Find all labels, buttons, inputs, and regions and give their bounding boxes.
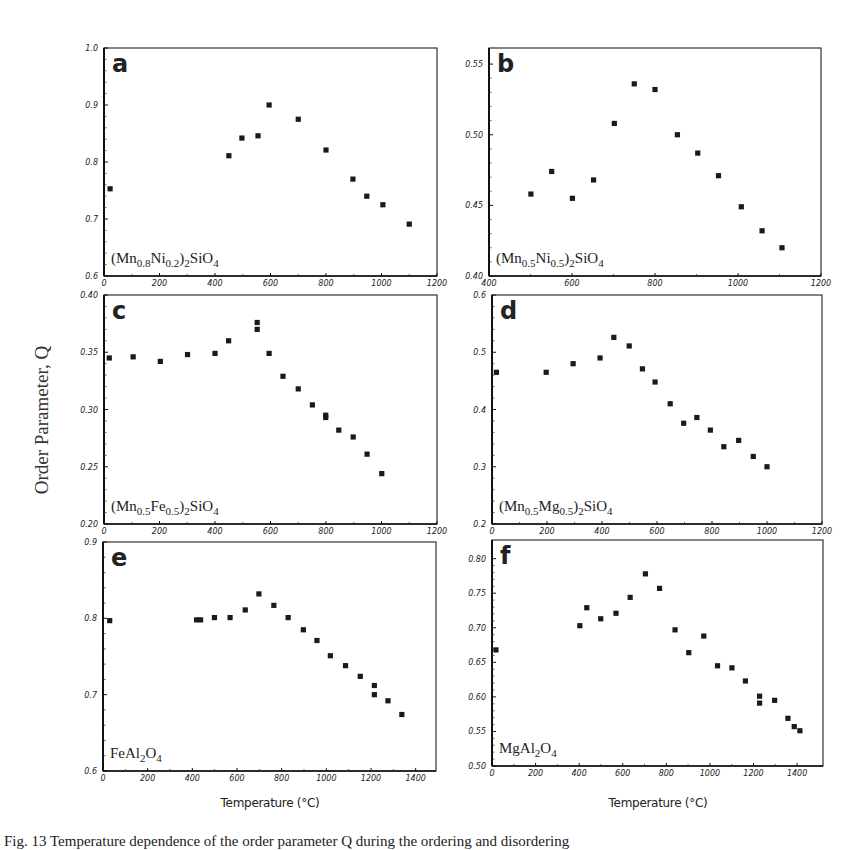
data-point [358, 674, 363, 679]
data-point [627, 343, 632, 348]
data-point [577, 623, 582, 628]
x-tick-label: 800 [659, 769, 674, 778]
data-point [328, 653, 333, 658]
panel-letter: f [500, 542, 511, 570]
data-point [528, 191, 533, 196]
data-point [779, 245, 784, 250]
x-tick-label: 1200 [811, 279, 831, 288]
x-tick-label: 600 [649, 527, 664, 536]
data-point [227, 615, 232, 620]
x-tick-label: 200 [152, 279, 167, 288]
x-tick-label: 400 [207, 279, 222, 288]
panel-f: 0.500.550.600.650.700.750.80020040060080… [468, 540, 823, 778]
y-tick-label: 0.55 [465, 60, 483, 69]
data-point [131, 354, 136, 359]
data-point [350, 177, 355, 182]
y-tick-label: 0.4 [473, 406, 486, 415]
x-tick-label: 400 [594, 527, 609, 536]
y-tick-label: 0.35 [80, 348, 98, 357]
data-point [715, 663, 720, 668]
data-point [212, 615, 217, 620]
data-point [611, 335, 616, 340]
y-tick-label: 0.6 [85, 272, 98, 281]
plot-frame [103, 542, 436, 771]
data-point [301, 627, 306, 632]
data-point [686, 650, 691, 655]
data-point [772, 698, 777, 703]
data-point [286, 615, 291, 620]
data-point [628, 595, 633, 600]
data-point [751, 454, 756, 459]
data-point [640, 366, 645, 371]
data-point [185, 352, 190, 357]
data-point [494, 370, 499, 375]
y-tick-label: 0.70 [468, 624, 486, 633]
data-point [255, 327, 260, 332]
data-point [657, 586, 662, 591]
y-tick-label: 0.7 [84, 691, 98, 700]
y-tick-label: 0.25 [80, 463, 98, 472]
data-point [343, 663, 348, 668]
x-tick-label: 1000 [371, 527, 391, 536]
data-point [255, 320, 260, 325]
x-tick-label: 1400 [787, 769, 807, 778]
data-point [695, 151, 700, 156]
data-point [372, 683, 377, 688]
data-point [681, 421, 686, 426]
data-point [729, 665, 734, 670]
data-point [549, 169, 554, 174]
data-point [255, 133, 260, 138]
data-point [584, 605, 589, 610]
x-tick-label: 1000 [371, 279, 391, 288]
y-tick-label: 0.80 [468, 555, 486, 564]
data-point [323, 147, 328, 152]
x-tick-label: 0 [101, 279, 106, 288]
data-point [591, 177, 596, 182]
y-tick-label: 0.60 [468, 693, 486, 702]
data-point [797, 728, 802, 733]
x-tick-label: 1200 [812, 527, 832, 536]
data-point [267, 102, 272, 107]
data-point [643, 571, 648, 576]
data-point [792, 724, 797, 729]
data-point [385, 698, 390, 703]
x-tick-label: 1200 [427, 279, 447, 288]
data-point [158, 359, 163, 364]
x-tick-label: 400 [185, 774, 200, 783]
y-tick-label: 0.50 [468, 762, 486, 771]
x-tick-label: 400 [572, 769, 587, 778]
x-tick-label: 600 [229, 774, 244, 783]
data-point [379, 471, 384, 476]
y-tick-label: 0.7 [85, 215, 99, 224]
x-tick-label: 1000 [728, 279, 748, 288]
panel-c: 0.200.250.300.350.4002004006008001000120… [80, 291, 447, 536]
plot-frame [104, 295, 437, 524]
data-point [107, 355, 112, 360]
y-tick-label: 0.5 [473, 348, 486, 357]
data-point [632, 81, 637, 86]
x-tick-label: 1200 [427, 527, 447, 536]
data-point [759, 228, 764, 233]
panel-letter: a [112, 50, 128, 78]
y-tick-label: 0.20 [80, 520, 98, 529]
data-point [364, 452, 369, 457]
y-tick-label: 1.0 [85, 44, 98, 53]
x-tick-label: 1400 [405, 774, 425, 783]
x-tick-label: 800 [274, 774, 289, 783]
data-point [280, 374, 285, 379]
x-axis-label-left: Temperature (°C) [221, 796, 320, 810]
y-tick-label: 0.50 [465, 131, 483, 140]
data-point [323, 415, 328, 420]
panel-b: 0.400.450.500.5540060080010001200b(Mn0.5… [465, 48, 831, 288]
data-point [380, 202, 385, 207]
data-point [672, 627, 677, 632]
y-tick-label: 0.8 [84, 614, 97, 623]
data-point [226, 338, 231, 343]
data-point [743, 678, 748, 683]
x-tick-label: 200 [140, 774, 155, 783]
x-tick-label: 600 [564, 279, 579, 288]
panel-letter: c [112, 297, 126, 325]
data-point [107, 618, 112, 623]
data-point [267, 351, 272, 356]
